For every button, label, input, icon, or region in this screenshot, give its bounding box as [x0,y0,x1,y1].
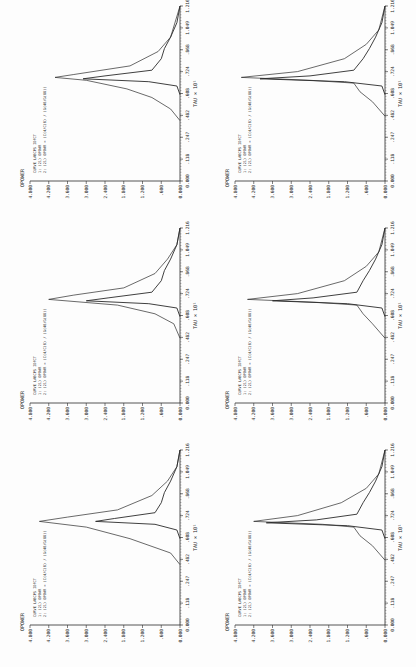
y-tick-label: 4.200 [46,629,51,643]
x-axis-label: TAU × 10¹ [397,524,403,551]
axes [30,450,180,625]
x-tick-label: .482 [185,554,190,565]
y-tick-label: .600 [364,629,369,640]
legend-line: CURVE LABCPS IDFCT [238,577,242,617]
y-tick-label: 1.800 [121,185,126,199]
y-tick-label: 1.200 [140,407,145,421]
x-tick-label: .724 [390,288,395,299]
x-tick-label: .608 [390,532,395,543]
legend-line: CURVE LABCPS IDFCT [238,133,242,173]
legend-line: 1: (21) OPOWR [243,144,247,173]
y-tick-label: 1.200 [345,407,350,421]
legend-line: 2: (21) OPOWR = (C(4/C(8) / (G(48/G(88)) [248,530,252,617]
plot-svg: 0.000.6001.2001.8002.4003.0003.6004.2004… [10,225,200,435]
series-curve-2 [273,228,386,317]
legend-line: 2: (21) OPOWR = (C(4/C(8) / (G(48/G(88)) [248,86,252,173]
x-tick-label: .608 [390,88,395,99]
legend-line: 1: (21) OPOWR [38,588,42,617]
plot-panel-3: 0.000.6001.2001.8002.4003.0003.6004.2004… [10,3,200,213]
plot-panel-5: 0.000.6001.2001.8002.4003.0003.6004.2004… [215,225,405,435]
y-tick-label: 1.800 [121,629,126,643]
y-tick-label: 3.600 [270,629,275,643]
y-tick-label: 2.400 [103,407,108,421]
y-tick-label: 4.800 [28,629,33,643]
y-tick-label: 2.400 [103,629,108,643]
x-tick-label: 0.000 [390,396,395,410]
plot-panel-2: 0.000.6001.2001.8002.4003.0003.6004.2004… [10,225,200,435]
y-tick-label: 4.800 [233,407,238,421]
y-tick-label: 3.000 [84,629,89,643]
x-tick-label: .724 [390,510,395,521]
axes [235,228,385,403]
x-tick-label: .724 [390,66,395,77]
y-tick-label: 2.400 [308,629,313,643]
y-tick-label: 1.200 [345,629,350,643]
x-tick-label: .608 [390,310,395,321]
y-tick-label: .600 [364,185,369,196]
series-curve-2 [83,6,180,95]
x-tick-label: .118 [185,375,190,386]
legend-line: CURVE LABCPS IDFCT [33,577,37,617]
x-tick-label: .118 [390,597,395,608]
legend-line: 1: (21) OPOWR [243,366,247,395]
y-tick-label: 3.000 [289,629,294,643]
legend-line: 1: (21) OPOWR [243,588,247,617]
legend-line: 2: (21) OPOWR = (C(4/C(8) / (G(48/G(88)) [248,308,252,395]
plot-panel-1: 0.000.6001.2001.8002.4003.0003.6004.2004… [10,447,200,657]
series-curve-1 [248,228,386,338]
axes [30,6,180,181]
y-tick-label: 4.800 [28,185,33,199]
x-tick-label: .247 [185,354,190,365]
legend-line: 1: (21) OPOWR [38,144,42,173]
x-tick-label: 1.216 [185,221,190,235]
y-tick-label: 4.200 [251,629,256,643]
x-tick-label: 1.216 [390,221,395,235]
y-tick-label: 1.200 [345,185,350,199]
plot-svg: 0.000.6001.2001.8002.4003.0003.6004.2004… [10,3,200,213]
plot-panel-4: 0.000.6001.2001.8002.4003.0003.6004.2004… [215,447,405,657]
y-tick-label: 3.600 [270,185,275,199]
legend-line: 2: (21) OPOWR = (C(4/C(8) / (G(48/G(88)) [43,530,47,617]
legend-line: 1: (21) OPOWR [38,366,42,395]
x-tick-label: .724 [185,66,190,77]
y-tick-label: .600 [159,407,164,418]
series-curve-2 [96,450,180,539]
x-tick-label: .724 [185,510,190,521]
y-tick-label: 0.000 [178,407,183,421]
y-tick-label: 4.800 [233,629,238,643]
x-axis-label: TAU × 10¹ [192,302,198,329]
y-axis-label: OPOWER [224,390,230,409]
y-tick-label: 0.000 [383,407,388,421]
x-tick-label: .482 [390,554,395,565]
y-tick-label: 4.200 [251,407,256,421]
series-curve-1 [254,450,385,560]
x-tick-label: .608 [185,532,190,543]
legend-line: CURVE LABCPS IDFCT [33,133,37,173]
x-tick-label: .868 [390,488,395,499]
x-axis-label: TAU × 10¹ [397,80,403,107]
x-tick-label: 0.000 [185,174,190,188]
x-tick-label: .118 [185,597,190,608]
y-tick-label: 2.400 [103,185,108,199]
series-curve-2 [266,450,385,539]
x-tick-label: .118 [185,153,190,164]
x-axis-label: TAU × 10¹ [192,524,198,551]
x-tick-label: .118 [390,375,395,386]
y-tick-label: 4.800 [233,185,238,199]
plot-svg: 0.000.6001.2001.8002.4003.0003.6004.2004… [215,3,405,213]
x-tick-label: .247 [390,576,395,587]
figure-rotated: 0.000.6001.2001.8002.4003.0003.6004.2004… [0,0,416,667]
y-tick-label: 1.200 [140,185,145,199]
x-tick-label: .868 [185,44,190,55]
y-tick-label: 0.000 [178,185,183,199]
legend-line: CURVE LABCPS IDFCT [33,355,37,395]
y-tick-label: .600 [364,407,369,418]
x-tick-label: .482 [390,332,395,343]
y-tick-label: 0.000 [383,185,388,199]
x-tick-label: .118 [390,153,395,164]
x-tick-label: 1.049 [390,21,395,35]
x-tick-label: 1.049 [185,21,190,35]
plot-panel-6: 0.000.6001.2001.8002.4003.0003.6004.2004… [215,3,405,213]
y-tick-label: 1.800 [121,407,126,421]
y-tick-label: 1.800 [326,407,331,421]
